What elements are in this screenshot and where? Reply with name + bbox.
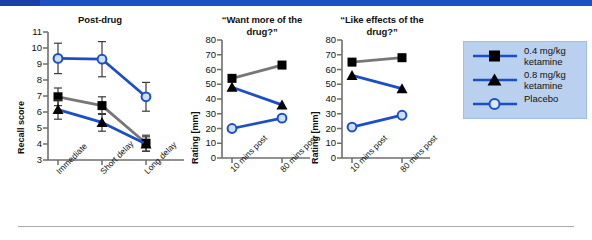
top-banner-accent [40, 0, 592, 6]
legend-marker-circle-icon [472, 96, 518, 112]
data-point-triangle [347, 70, 358, 80]
y-tick-0-9: 9 [20, 59, 42, 68]
data-point-open-circle [348, 123, 357, 132]
data-point-square [278, 61, 287, 70]
y-tick-2-80: 80 [314, 35, 336, 44]
chart-title-0: Post-drug [10, 14, 190, 26]
data-point-open-circle [398, 111, 407, 120]
data-point-open-circle [142, 92, 151, 101]
y-tick-1-70: 70 [194, 50, 216, 59]
y-tick-1-20: 20 [194, 124, 216, 133]
y-tick-1-60: 60 [194, 65, 216, 74]
data-point-triangle [227, 82, 238, 92]
data-point-open-circle [54, 54, 63, 63]
y-tick-1-10: 10 [194, 138, 216, 147]
y-tick-0-11: 11 [20, 27, 42, 36]
legend-marker-square-icon [472, 48, 518, 64]
y-tick-0-7: 7 [20, 91, 42, 100]
legend-label-2: Placebo [524, 93, 582, 104]
legend-entry-2: Placebo [472, 96, 580, 118]
legend-label-0: 0.4 mg/kg ketamine [524, 45, 582, 67]
data-point-open-circle [228, 124, 237, 133]
y-tick-0-3: 3 [20, 155, 42, 164]
y-tick-2-50: 50 [314, 79, 336, 88]
legend: 0.4 mg/kg ketamine 0.8 mg/kg ketamine Pl… [463, 41, 587, 119]
y-tick-0-5: 5 [20, 123, 42, 132]
chart-panel-like-effects: “Like effects of the drug?” Rating [mm] … [306, 14, 456, 214]
plot-area-2: 0102030405060708010 mins post80 mins pos… [318, 40, 434, 164]
legend-entry-0: 0.4 mg/kg ketamine [472, 48, 580, 70]
bottom-divider [18, 226, 574, 227]
chart-title-2-line1: “Like effects of the [308, 14, 456, 26]
plot-area-0: 34567891011ImmediateShort delayLong dela… [24, 32, 188, 166]
data-point-square [398, 53, 407, 62]
legend-label-1: 0.8 mg/kg ketamine [524, 69, 582, 91]
data-point-square [98, 101, 107, 110]
plot-area-1: 0102030405060708010 mins post80 mins pos… [198, 40, 314, 164]
y-tick-2-20: 20 [314, 124, 336, 133]
y-tick-2-30: 30 [314, 109, 336, 118]
y-tick-2-60: 60 [314, 65, 336, 74]
data-point-square [348, 58, 357, 67]
data-point-square [228, 74, 237, 83]
y-tick-2-40: 40 [314, 94, 336, 103]
legend-marker-triangle-icon [472, 72, 518, 88]
y-tick-1-80: 80 [194, 35, 216, 44]
chart-panel-post-drug: Post-drug Recall score 34567891011Immedi… [0, 14, 192, 214]
y-tick-0-6: 6 [20, 107, 42, 116]
data-point-open-circle [98, 55, 107, 64]
y-tick-2-10: 10 [314, 138, 336, 147]
y-tick-1-30: 30 [194, 109, 216, 118]
top-banner [0, 0, 592, 6]
y-tick-1-0: 0 [194, 153, 216, 162]
data-point-open-circle [278, 114, 287, 123]
y-tick-0-4: 4 [20, 139, 42, 148]
legend-entry-1: 0.8 mg/kg ketamine [472, 72, 580, 94]
y-tick-0-8: 8 [20, 75, 42, 84]
y-tick-2-70: 70 [314, 50, 336, 59]
y-tick-2-0: 0 [314, 153, 336, 162]
y-tick-1-40: 40 [194, 94, 216, 103]
y-tick-0-10: 10 [20, 43, 42, 52]
y-tick-1-50: 50 [194, 79, 216, 88]
